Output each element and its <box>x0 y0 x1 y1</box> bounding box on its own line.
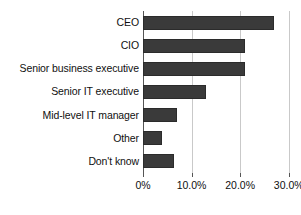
bar-dont-know <box>143 154 174 168</box>
bar-chart: CEO CIO Senior business executive Senior… <box>0 0 301 215</box>
category-label-row: Mid-level IT manager <box>0 104 139 127</box>
category-label-dont-know: Don't know <box>88 156 139 167</box>
category-axis: CEO CIO Senior business executive Senior… <box>0 11 139 173</box>
category-label-ceo: CEO <box>117 17 139 28</box>
category-label-cio: CIO <box>121 40 139 51</box>
category-label-row: Senior IT executive <box>0 80 139 103</box>
x-tick-mark-20 <box>240 173 241 177</box>
category-label-mid-level-it-manager: Mid-level IT manager <box>43 110 139 121</box>
category-label-senior-it-executive: Senior IT executive <box>51 86 139 97</box>
category-label-other: Other <box>113 133 139 144</box>
x-tick-label-0: 0% <box>135 179 150 191</box>
x-tick-mark-10 <box>192 173 193 177</box>
category-label-row: Other <box>0 127 139 150</box>
plot-area <box>143 11 296 173</box>
bar-row <box>143 80 296 103</box>
category-label-row: Senior business executive <box>0 57 139 80</box>
bar-row <box>143 34 296 57</box>
bar-row <box>143 11 296 34</box>
category-label-senior-business-executive: Senior business executive <box>20 63 140 74</box>
category-label-row: CEO <box>0 11 139 34</box>
x-tick-mark-30 <box>289 173 290 177</box>
bars-layer <box>143 11 296 173</box>
bar-row <box>143 104 296 127</box>
x-tick-label-10: 10.0% <box>177 179 207 191</box>
bar-ceo <box>143 16 274 30</box>
bar-senior-it-executive <box>143 85 206 99</box>
bar-cio <box>143 39 245 53</box>
x-tick-label-20: 20.0% <box>225 179 255 191</box>
bar-senior-business-executive <box>143 62 245 76</box>
value-axis: 0% 10.0% 20.0% 30.0% <box>143 173 296 203</box>
category-label-row: CIO <box>0 34 139 57</box>
bar-row <box>143 57 296 80</box>
bar-row <box>143 127 296 150</box>
category-label-row: Don't know <box>0 150 139 173</box>
x-tick-mark-0 <box>143 173 144 177</box>
x-tick-label-30: 30.0% <box>274 179 301 191</box>
bar-other <box>143 131 162 145</box>
bar-mid-level-it-manager <box>143 108 177 122</box>
bar-row <box>143 150 296 173</box>
